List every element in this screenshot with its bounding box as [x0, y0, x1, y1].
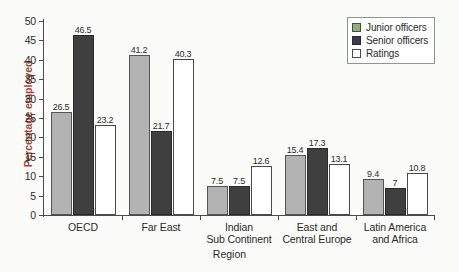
y-axis-tick-label: 45 [10, 34, 36, 46]
legend-item: Senior officers [352, 34, 428, 47]
bar-ratings: 10.8 [407, 173, 428, 215]
legend-item: Ratings [352, 47, 428, 60]
bar-value-label: 7.5 [233, 176, 245, 186]
bar-value-label: 21.7 [153, 121, 170, 131]
legend-label: Senior officers [366, 35, 428, 46]
bar-value-label: 40.3 [175, 49, 192, 59]
x-axis-category-label: OECD [44, 221, 122, 233]
x-axis-category-label: Far East [122, 221, 200, 233]
category-label-line: Sub Continent [200, 233, 278, 245]
category-label-line: Latin America [356, 221, 434, 233]
bar-junior: 7.5 [207, 186, 228, 215]
bar-value-label: 46.5 [75, 25, 92, 35]
bar-value-label: 12.6 [253, 156, 270, 166]
x-axis-group-separator [356, 215, 357, 220]
bar-value-label: 41.2 [131, 45, 148, 55]
category-label-line: East and [278, 221, 356, 233]
bar-junior: 26.5 [51, 112, 72, 215]
bar-value-label: 23.2 [97, 115, 114, 125]
y-axis-tick-label: 15 [10, 151, 36, 163]
bar-junior: 15.4 [285, 155, 306, 215]
bar-junior: 41.2 [129, 55, 150, 215]
x-axis-category-label: East andCentral Europe [278, 221, 356, 245]
x-axis-group-separator [278, 215, 279, 220]
category-label-line: Indian [200, 221, 278, 233]
bar-value-label: 26.5 [53, 102, 70, 112]
bar-senior: 17.3 [307, 148, 328, 215]
legend-swatch-ratings [352, 49, 361, 58]
y-axis-tick-label: 20 [10, 131, 36, 143]
x-axis-group-separator [434, 215, 435, 220]
legend-swatch-senior-officers [352, 36, 361, 45]
legend-label: Ratings [366, 48, 399, 59]
bar-value-label: 13.1 [331, 154, 348, 164]
y-axis-tick-label: 30 [10, 93, 36, 105]
category-label-line: Far East [122, 221, 200, 233]
x-axis-category-label: IndianSub Continent [200, 221, 278, 245]
legend-swatch-junior-officers [352, 23, 361, 32]
y-axis-tick-label: 25 [10, 112, 36, 124]
x-axis-group-separator [122, 215, 123, 220]
legend-item: Junior officers [352, 21, 428, 34]
y-axis-tick-label: 10 [10, 170, 36, 182]
bar-junior: 9.4 [363, 179, 384, 215]
bar-value-label: 17.3 [309, 138, 326, 148]
category-label-line: and Africa [356, 233, 434, 245]
bar-value-label: 9.4 [367, 169, 379, 179]
bar-value-label: 10.8 [409, 163, 426, 173]
y-axis-tick-label: 35 [10, 73, 36, 85]
bar-ratings: 13.1 [329, 164, 350, 215]
category-label-line: Central Europe [278, 233, 356, 245]
x-axis-title: Region [0, 248, 459, 260]
bar-ratings: 40.3 [173, 59, 194, 215]
bar-ratings: 12.6 [251, 166, 272, 215]
bar-value-label: 7 [393, 178, 398, 188]
bar-ratings: 23.2 [95, 125, 116, 215]
y-axis-tick-label: 50 [10, 15, 36, 27]
y-axis-tick-label: 5 [10, 190, 36, 202]
y-axis-tick-label: 0 [10, 209, 36, 221]
bar-senior: 21.7 [151, 131, 172, 215]
category-label-line: OECD [44, 221, 122, 233]
bar-value-label: 15.4 [287, 145, 304, 155]
chart-page: Percentage employed 50454035302520151050… [0, 0, 459, 272]
bar-value-label: 7.5 [211, 176, 223, 186]
x-axis-category-label: Latin Americaand Africa [356, 221, 434, 245]
bar-senior: 7 [385, 188, 406, 215]
legend-label: Junior officers [366, 22, 427, 33]
y-axis-tick [39, 215, 44, 216]
bar-senior: 46.5 [73, 35, 94, 215]
x-axis-group-separator [200, 215, 201, 220]
bar-senior: 7.5 [229, 186, 250, 215]
y-axis-tick-label: 40 [10, 54, 36, 66]
x-axis-line [43, 215, 435, 216]
chart-legend: Junior officers Senior officers Ratings [347, 17, 435, 64]
